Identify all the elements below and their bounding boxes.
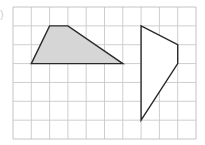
grid-diagram — [0, 0, 205, 145]
